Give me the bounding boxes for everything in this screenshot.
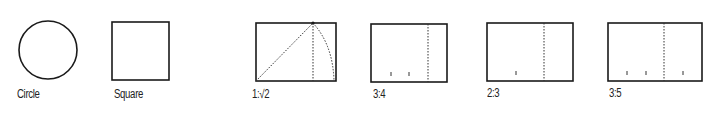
ratio-3-5-label: 3:5 — [609, 87, 621, 100]
circle-label: Circle — [17, 88, 40, 101]
ratio-3-4-label: 3:4 — [373, 88, 385, 101]
diagonal-construction-line — [256, 23, 313, 81]
square-label: Square — [114, 88, 143, 101]
proportion-shapes-diagram: Circle Square 1:√2 3:4 2:3 3:5 — [0, 0, 705, 137]
ratio-1-sqrt2-label: 1:√2 — [252, 88, 269, 101]
rect-3-5-shape — [608, 23, 702, 81]
square-shape — [112, 22, 169, 80]
rect-3-4-shape — [371, 24, 447, 82]
vertex-dot — [311, 21, 314, 24]
ratio-2-3-label: 2:3 — [487, 87, 499, 100]
rect-2-3-shape — [487, 23, 573, 81]
arc-construction-line — [313, 23, 334, 81]
circle-shape — [19, 21, 77, 79]
rect-1-sqrt2-shape — [256, 21, 336, 81]
